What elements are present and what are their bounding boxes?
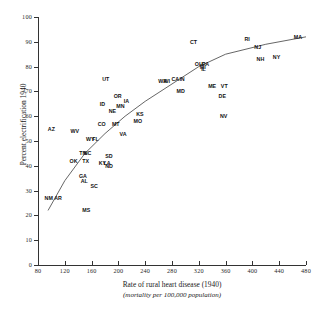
x-tick-label: 280 [161, 267, 183, 274]
state-label-ne: NE [109, 108, 116, 114]
state-label-ca: CA [172, 76, 180, 82]
state-label-mt: MT [112, 121, 120, 127]
state-label-il: IL [201, 66, 206, 72]
y-tick-label: 10 [14, 236, 32, 243]
state-label-az: AZ [48, 126, 55, 132]
state-label-nc: NC [84, 150, 92, 156]
x-tick-label: 360 [215, 267, 237, 274]
x-tick [226, 261, 227, 265]
state-label-ut: UT [102, 76, 109, 82]
state-label-va: VA [120, 131, 127, 137]
state-label-md: MD [177, 88, 185, 94]
state-label-id: ID [100, 101, 105, 107]
y-tick-label: 0 [14, 261, 32, 268]
x-axis-subtitle: (mortality per 100,000 population) [38, 291, 306, 299]
x-tick-label: 160 [81, 267, 103, 274]
x-tick-label: 440 [268, 267, 290, 274]
x-tick [199, 261, 200, 265]
y-tick-label: 20 [14, 211, 32, 218]
state-label-mo: MO [134, 118, 143, 124]
x-tick [118, 261, 119, 265]
x-tick [145, 261, 146, 265]
y-tick [34, 67, 38, 68]
x-tick [279, 261, 280, 265]
state-label-ia: IA [124, 98, 129, 104]
state-label-nj: NJ [254, 44, 261, 50]
state-label-wi: WI [163, 78, 169, 84]
state-label-ct: CT [190, 39, 197, 45]
state-label-fl: FL [92, 136, 98, 142]
state-label-sc: SC [91, 183, 98, 189]
y-axis-line [38, 17, 39, 265]
x-tick-label: 480 [295, 267, 317, 274]
y-tick [34, 91, 38, 92]
x-tick-label: 120 [54, 267, 76, 274]
x-tick [252, 261, 253, 265]
state-label-ar: AR [54, 195, 62, 201]
y-tick [34, 116, 38, 117]
y-tick-label: 90 [14, 38, 32, 45]
y-tick [34, 240, 38, 241]
state-label-ms: MS [82, 207, 90, 213]
state-label-vt: VT [221, 83, 228, 89]
state-label-ny: NY [273, 54, 280, 60]
x-axis-title: Rate of rural heart disease (1940) [38, 280, 306, 289]
y-tick [34, 42, 38, 43]
state-label-co: CO [98, 121, 106, 127]
state-label-tx: TX [82, 158, 89, 164]
state-label-in: IN [179, 76, 184, 82]
y-tick [34, 166, 38, 167]
state-label-ok: OK [70, 158, 78, 164]
x-tick [306, 261, 307, 265]
y-tick [34, 265, 38, 266]
state-label-nh: NH [257, 56, 265, 62]
state-label-ma: MA [294, 34, 302, 40]
y-tick [34, 215, 38, 216]
x-tick-label: 240 [134, 267, 156, 274]
y-axis-title: Percent electrification 1940 [19, 50, 28, 200]
x-tick-label: 80 [27, 267, 49, 274]
x-tick-label: 400 [241, 267, 263, 274]
x-tick-label: 200 [107, 267, 129, 274]
y-tick [34, 191, 38, 192]
state-label-ks: KS [136, 111, 143, 117]
y-tick [34, 17, 38, 18]
state-label-wv: WV [71, 128, 80, 134]
x-tick [172, 261, 173, 265]
x-tick [92, 261, 93, 265]
state-label-nd: ND [105, 163, 113, 169]
x-tick [65, 261, 66, 265]
state-label-or: OR [114, 93, 122, 99]
y-tick [34, 141, 38, 142]
scatter-chart: 80120160200240280320360400440480 0102030… [0, 0, 325, 315]
x-tick [38, 261, 39, 265]
state-label-me: ME [208, 83, 216, 89]
state-label-al: AL [81, 178, 88, 184]
state-label-nv: NV [220, 113, 227, 119]
state-label-ri: RI [244, 36, 249, 42]
y-tick-label: 100 [14, 13, 32, 20]
state-label-de: DE [219, 93, 226, 99]
state-label-sd: SD [105, 153, 112, 159]
x-tick-label: 320 [188, 267, 210, 274]
x-axis-line [38, 265, 306, 266]
state-label-nm: NM [45, 195, 53, 201]
